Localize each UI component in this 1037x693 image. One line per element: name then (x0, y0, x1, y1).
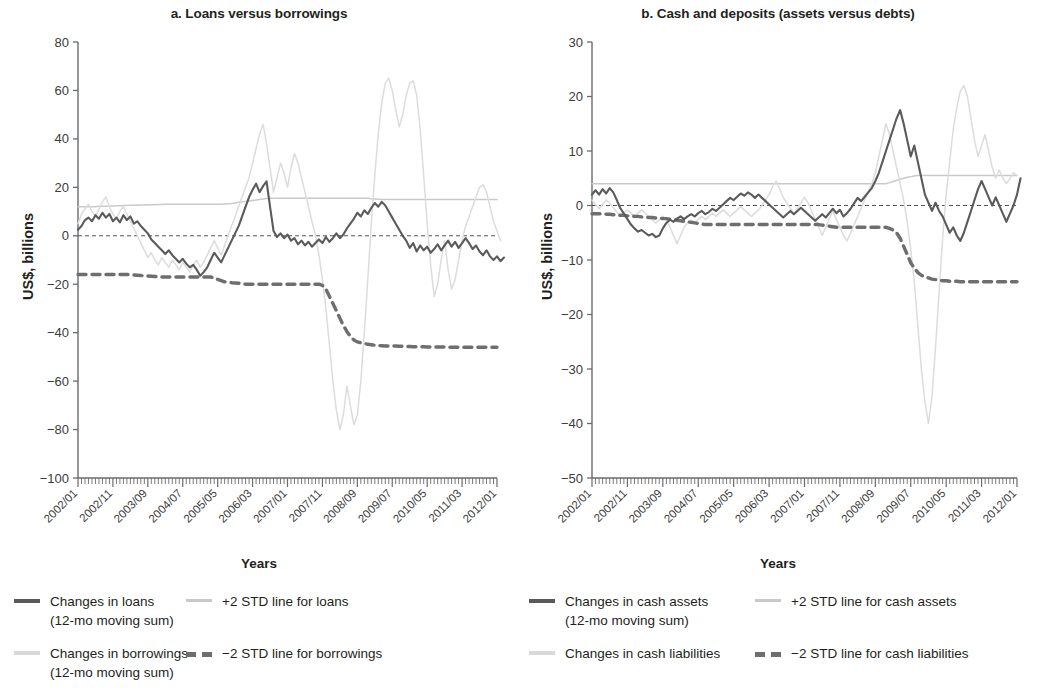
legend-row: Changes in cash liabilities −2 STD line … (519, 644, 1037, 693)
x-tick-label: 2005/05 (697, 487, 735, 525)
legend-item-changes-in-cash-liabilities: Changes in cash liabilities (529, 644, 720, 663)
legend-row: Changes in cash assets (12-mo moving sum… (519, 592, 1037, 644)
legend-item-plus2-std-cash-assets: +2 STD line for cash assets (755, 592, 956, 611)
x-tick-label: 2009/07 (874, 487, 912, 525)
panel-a: a. Loans versus borrowings 806040200−20−… (0, 0, 518, 600)
x-tick-label: 2003/09 (626, 487, 664, 525)
x-tick-label: 2007/11 (287, 487, 324, 524)
x-tick-label: 2002/01 (556, 487, 594, 525)
x-tick-label: 2011/03 (426, 487, 463, 524)
x-tick-label: 2004/07 (662, 487, 700, 525)
y-tick-label: 60 (55, 83, 69, 98)
x-tick-label: 2010/05 (910, 487, 948, 525)
series-line (592, 176, 1017, 184)
series-line (78, 198, 497, 206)
legend-label: −2 STD line for cash liabilities (791, 644, 968, 663)
legend-swatch-solid-pale-icon (14, 651, 40, 655)
y-tick-label: 0 (576, 198, 583, 213)
x-tick-label: 2002/01 (42, 487, 80, 525)
legend-swatch-solid-light-icon (186, 599, 212, 602)
legend-label: Changes in borrowings (12-mo moving sum) (50, 644, 188, 682)
y-tick-label: −40 (47, 325, 69, 340)
panel-a-y-axis-label: US$, billions (20, 213, 36, 300)
legend-label: +2 STD line for loans (222, 592, 348, 611)
x-tick-label: 2008/09 (321, 487, 359, 525)
panel-b-plot: 3020100−10−20−30−40−502002/012002/112003… (519, 0, 1037, 556)
series-line (592, 86, 1017, 424)
y-tick-label: 0 (62, 228, 69, 243)
x-tick-label: 2002/11 (77, 487, 114, 524)
x-tick-label: 2005/05 (181, 487, 219, 525)
y-tick-label: 80 (55, 35, 69, 50)
x-tick-label: 2011/03 (946, 487, 983, 524)
legend-item-minus2-std-borrowings: −2 STD line for borrowings (186, 644, 382, 663)
y-tick-label: −50 (561, 471, 583, 486)
legend-item-changes-in-borrowings: Changes in borrowings (12-mo moving sum) (14, 644, 188, 682)
y-tick-label: −40 (561, 416, 583, 431)
legend-item-minus2-std-cash-liabilities: −2 STD line for cash liabilities (755, 644, 968, 663)
panel-b-x-axis-label: Years (519, 556, 1037, 571)
y-tick-label: −30 (561, 362, 583, 377)
y-tick-label: −100 (40, 471, 69, 486)
legend-item-changes-in-cash-assets: Changes in cash assets (12-mo moving sum… (529, 592, 708, 630)
y-tick-label: −20 (561, 307, 583, 322)
x-tick-label: 2007/01 (768, 487, 806, 525)
x-tick-label: 2002/11 (592, 487, 629, 524)
panel-b: b. Cash and deposits (assets versus debt… (519, 0, 1037, 600)
panel-a-plot: 806040200−20−40−60−80−1002002/012002/112… (0, 0, 518, 556)
series-line (78, 181, 504, 275)
x-tick-label: 2003/09 (111, 487, 149, 525)
x-tick-label: 2012/01 (981, 487, 1019, 525)
legend-row: Changes in loans (12-mo moving sum) +2 S… (0, 592, 518, 644)
panel-a-legend: Changes in loans (12-mo moving sum) +2 S… (0, 592, 518, 693)
legend-label: +2 STD line for cash assets (791, 592, 956, 611)
legend-label: Changes in cash liabilities (565, 644, 720, 663)
x-tick-label: 2004/07 (146, 487, 184, 525)
y-tick-label: −80 (47, 422, 69, 437)
y-tick-label: 10 (569, 144, 583, 159)
x-tick-label: 2007/01 (251, 487, 289, 525)
y-tick-label: −10 (561, 253, 583, 268)
legend-item-changes-in-loans: Changes in loans (12-mo moving sum) (14, 592, 174, 630)
panel-b-y-axis-label: US$, billions (539, 213, 555, 300)
y-tick-label: −20 (47, 277, 69, 292)
x-tick-label: 2007/11 (804, 487, 841, 524)
series-line (78, 78, 500, 429)
x-tick-label: 2008/09 (839, 487, 877, 525)
series-line (78, 275, 497, 348)
panel-a-x-axis-label: Years (0, 556, 518, 571)
legend-label: Changes in cash assets (12-mo moving sum… (565, 592, 708, 630)
x-tick-label: 2010/05 (391, 487, 429, 525)
series-line (592, 214, 1017, 282)
y-tick-label: 40 (55, 131, 69, 146)
legend-swatch-solid-dark-icon (14, 599, 40, 603)
y-tick-label: 20 (569, 89, 583, 104)
legend-swatch-solid-dark-icon (529, 599, 555, 603)
legend-item-plus2-std-loans: +2 STD line for loans (186, 592, 348, 611)
panel-b-legend: Changes in cash assets (12-mo moving sum… (519, 592, 1037, 693)
y-tick-label: −60 (47, 374, 69, 389)
legend-label: −2 STD line for borrowings (222, 644, 382, 663)
legend-swatch-dashed-icon (755, 652, 781, 657)
legend-swatch-solid-pale-icon (529, 651, 555, 655)
legend-row: Changes in borrowings (12-mo moving sum)… (0, 644, 518, 693)
x-tick-label: 2006/03 (733, 487, 771, 525)
figure-root: a. Loans versus borrowings 806040200−20−… (0, 0, 1037, 693)
legend-label: Changes in loans (12-mo moving sum) (50, 592, 174, 630)
y-tick-label: 30 (569, 35, 583, 50)
y-tick-label: 20 (55, 180, 69, 195)
x-tick-label: 2012/01 (461, 487, 499, 525)
legend-swatch-dashed-icon (186, 652, 212, 657)
x-tick-label: 2009/07 (356, 487, 394, 525)
legend-swatch-solid-light-icon (755, 599, 781, 602)
x-tick-label: 2006/03 (216, 487, 254, 525)
